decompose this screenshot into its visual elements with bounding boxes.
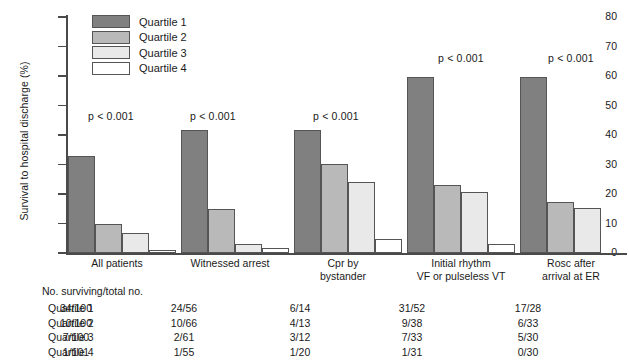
table-cell: 10/66 — [144, 317, 224, 329]
x-axis-label-all-patients: All patients — [62, 257, 172, 270]
x-axis-label-rosc-after-arrival: Rosc after arrival at ER — [516, 257, 626, 282]
pvalue-annotation-initial-rhythm: p < 0.001 — [438, 52, 484, 64]
bar — [488, 244, 515, 253]
y-tick-mark — [58, 223, 66, 225]
legend-label-quartile-3: Quartile 3 — [139, 47, 187, 59]
bar — [294, 130, 321, 253]
bar — [181, 130, 208, 253]
legend-label-quartile-2: Quartile 2 — [139, 31, 187, 43]
legend-item-quartile-3: Quartile 3 — [92, 45, 187, 61]
y-tick-mark — [58, 193, 66, 195]
bar-group — [181, 17, 289, 253]
legend-swatch-quartile-4 — [92, 62, 130, 75]
y-tick-mark — [58, 16, 66, 18]
table-cell: 2/61 — [144, 331, 224, 343]
legend-item-quartile-2: Quartile 2 — [92, 30, 187, 46]
y-tick-mark — [58, 134, 66, 136]
y-tick-mark — [58, 75, 66, 77]
bar — [208, 209, 235, 253]
bar-group — [294, 17, 402, 253]
bar — [321, 164, 348, 253]
y-tick-mark — [58, 252, 66, 254]
bar — [149, 250, 176, 253]
legend-label-quartile-1: Quartile 1 — [139, 16, 187, 28]
legend-swatch-quartile-3 — [92, 46, 130, 59]
legend-label-quartile-4: Quartile 4 — [139, 62, 187, 74]
table-cell: 7/100 — [36, 331, 116, 343]
legend-swatch-quartile-2 — [92, 31, 130, 44]
table-cell: 17/28 — [488, 302, 568, 314]
bar — [574, 208, 601, 253]
bar — [461, 192, 488, 253]
pvalue-annotation-witnessed-arrest: p < 0.001 — [190, 110, 236, 122]
bar — [262, 248, 289, 253]
table-cell: 3/12 — [260, 331, 340, 343]
y-tick-mark — [58, 105, 66, 107]
bar — [375, 239, 402, 253]
legend-item-quartile-4: Quartile 4 — [92, 61, 187, 77]
bar — [407, 77, 434, 253]
legend: Quartile 1 Quartile 2 Quartile 3 Quartil… — [92, 14, 187, 76]
table-cell: 1/20 — [260, 346, 340, 358]
table-cell: 1/31 — [372, 346, 452, 358]
y-axis-title: Survival to hospital discharge (%) — [18, 21, 30, 261]
pvalue-annotation-rosc-after-arrival: p < 0.001 — [548, 52, 594, 64]
bar — [122, 233, 149, 253]
bar — [547, 202, 574, 253]
table-cell: 6/33 — [488, 317, 568, 329]
bar — [348, 182, 375, 253]
chart-figure: Survival to hospital discharge (%) 01020… — [0, 0, 629, 363]
x-axis-label-witnessed-arrest: Witnessed arrest — [172, 257, 288, 270]
y-tick-mark — [58, 164, 66, 166]
y-tick-mark — [58, 46, 66, 48]
table-cell: 0/30 — [488, 346, 568, 358]
table-cell: 1/55 — [144, 346, 224, 358]
legend-item-quartile-1: Quartile 1 — [92, 14, 187, 30]
table-cell: 31/52 — [372, 302, 452, 314]
table-cell: 7/33 — [372, 331, 452, 343]
table-cell: 6/14 — [260, 302, 340, 314]
bar — [95, 224, 122, 254]
table-cell: 9/38 — [372, 317, 452, 329]
table-cell: 24/56 — [144, 302, 224, 314]
pvalue-annotation-all-patients: p < 0.001 — [88, 110, 134, 122]
bar — [434, 185, 461, 253]
table-cell: 5/30 — [488, 331, 568, 343]
x-axis-label-cpr-bystander: Cpr by bystander — [292, 257, 394, 282]
x-axis-line — [66, 253, 627, 255]
pvalue-annotation-cpr-bystander: p < 0.001 — [313, 110, 359, 122]
bar — [520, 77, 547, 253]
legend-swatch-quartile-1 — [92, 15, 130, 28]
table-cell: 34/100 — [36, 302, 116, 314]
table-cell: 10/100 — [36, 317, 116, 329]
x-axis-label-initial-rhythm: Initial rhythm VF or pulseless VT — [398, 257, 524, 282]
table-cell: 1/101 — [36, 346, 116, 358]
table-header-label: No. surviving/total no. — [42, 285, 143, 297]
bar — [68, 156, 95, 253]
bar — [235, 244, 262, 253]
table-cell: 4/13 — [260, 317, 340, 329]
